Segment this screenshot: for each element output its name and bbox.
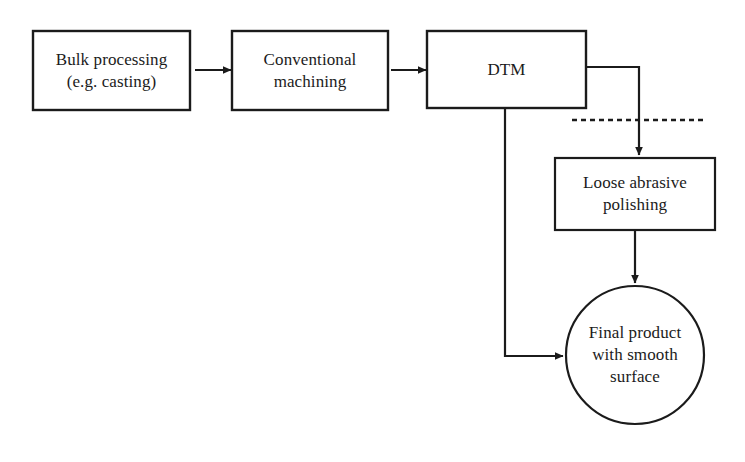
node-shape-loose-abrasive-polishing <box>555 158 715 230</box>
flowchart-canvas: Bulk processing (e.g. casting) Conventio… <box>0 0 745 462</box>
flowchart-graphics <box>0 0 745 462</box>
node-shape-bulk-processing <box>33 31 190 110</box>
node-shape-dtm <box>427 31 586 108</box>
node-shape-conventional-machining <box>232 31 388 110</box>
node-shape-final-product <box>566 286 704 424</box>
connector-dtm-to-polishing <box>586 67 639 155</box>
connector-dtm-to-final-product <box>505 108 563 356</box>
